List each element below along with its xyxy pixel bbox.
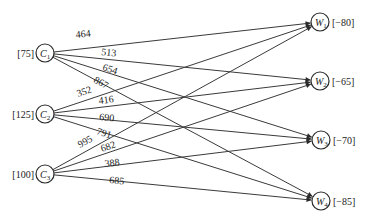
edge-cost-label: 388 xyxy=(104,156,120,169)
edge-layer xyxy=(53,23,313,200)
edge-c3-w3 xyxy=(54,141,312,173)
edge-cost-label: 995 xyxy=(76,133,94,150)
edge-cost-label: 352 xyxy=(75,84,93,99)
supply-label: [75] xyxy=(17,48,34,59)
node-w2: W2[−65] xyxy=(311,72,354,90)
node-w1: W1[−80] xyxy=(311,13,354,31)
demand-label: [−80] xyxy=(332,17,354,28)
node-c1: C1[75] xyxy=(17,44,54,62)
demand-label: [−85] xyxy=(333,196,355,207)
edge-cost-label: 513 xyxy=(101,46,117,58)
edge-cost-label: 791 xyxy=(95,125,113,140)
demand-label: [−65] xyxy=(332,76,354,87)
node-w3: W3[−70] xyxy=(312,131,355,149)
edge-cost-label: 464 xyxy=(75,27,91,40)
network-svg: 464513654867352416690791995682388685 C1[… xyxy=(0,0,369,224)
edge-c1-w2 xyxy=(54,54,311,80)
node-w4: W4[−85] xyxy=(312,192,355,210)
edge-cost-label: 654 xyxy=(101,61,119,76)
edge-c3-w4 xyxy=(54,175,312,200)
edge-cost-label: 682 xyxy=(99,139,117,154)
supply-label: [125] xyxy=(12,109,34,120)
edge-cost-label: 867 xyxy=(92,74,110,91)
edge-cost-label: 690 xyxy=(99,111,115,123)
demand-label: [−70] xyxy=(333,135,355,146)
edge-cost-label: 416 xyxy=(98,93,114,106)
edge-cost-label: 685 xyxy=(109,174,125,186)
transportation-network-diagram: 464513654867352416690791995682388685 C1[… xyxy=(0,0,369,224)
supply-label: [100] xyxy=(12,169,34,180)
node-c3: C3[100] xyxy=(12,165,54,183)
node-c2: C2[125] xyxy=(12,105,54,123)
